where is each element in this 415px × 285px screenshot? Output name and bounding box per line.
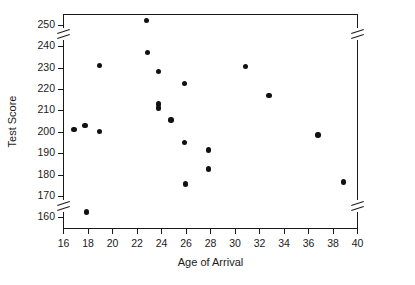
y-axis-tick-label: 190 (37, 146, 55, 159)
x-axis-tick-label: 26 (180, 237, 192, 249)
y-axis-tick: 210 (58, 110, 63, 111)
y-axis-tick-label: 230 (37, 61, 55, 74)
x-axis-tick-label: 28 (205, 237, 217, 249)
x-axis-tick-label: 18 (82, 237, 94, 249)
data-point (315, 132, 320, 137)
y-axis-tick-label: 170 (37, 189, 55, 202)
x-axis-tick-label: 30 (229, 237, 241, 249)
data-point (156, 69, 161, 74)
x-axis-tick: 40 (357, 229, 358, 234)
y-axis-tick-label: 250 (37, 18, 55, 31)
data-point (97, 129, 102, 134)
plot-frame-top-border (63, 14, 358, 15)
y-axis-tick-label: 160 (37, 210, 55, 223)
y-axis-tick-label: 180 (37, 168, 55, 181)
x-axis-tick: 22 (137, 229, 138, 234)
x-axis-tick-label: 24 (156, 237, 168, 249)
x-axis-tick: 26 (186, 229, 187, 234)
x-axis-tick-label: 20 (107, 237, 119, 249)
data-point (266, 93, 271, 98)
y-axis-tick: 180 (58, 175, 63, 176)
y-axis-tick: 240 (58, 46, 63, 47)
x-axis-tick-label: 38 (327, 237, 339, 249)
y-axis-tick: 220 (58, 89, 63, 90)
y-axis-tick-label: 200 (37, 125, 55, 138)
x-axis-tick-label: 34 (278, 237, 290, 249)
y-axis-tick-label: 210 (37, 103, 55, 116)
data-point (82, 123, 87, 128)
y-axis-tick: 170 (58, 196, 63, 197)
y-axis-title: Test Score (6, 14, 22, 229)
data-point (84, 209, 89, 214)
x-axis-tick: 32 (259, 229, 260, 234)
x-axis-tick: 16 (63, 229, 64, 234)
x-axis-tick: 28 (210, 229, 211, 234)
x-axis-tick: 30 (235, 229, 236, 234)
y-axis-break-lower-right-icon (351, 200, 364, 212)
y-axis-line-left (63, 14, 64, 229)
y-axis-tick: 230 (58, 68, 63, 69)
data-point (183, 181, 188, 186)
y-axis-tick-label: 220 (37, 82, 55, 95)
x-axis-tick-label: 36 (303, 237, 315, 249)
y-axis-break-lower-left-icon (57, 200, 70, 212)
y-axis-tick: 190 (58, 153, 63, 154)
x-axis-tick: 38 (333, 229, 334, 234)
data-point (156, 105, 161, 110)
data-point (145, 50, 150, 55)
y-axis-tick-label: 240 (37, 39, 55, 52)
x-axis-tick: 34 (284, 229, 285, 234)
x-axis-tick-label: 16 (58, 237, 70, 249)
x-axis-tick-label: 32 (254, 237, 266, 249)
y-axis-tick: 160 (58, 217, 63, 218)
plot-area: 160170180190200210220230240250 161820222… (63, 14, 358, 229)
x-axis-tick: 20 (112, 229, 113, 234)
data-point (206, 147, 211, 152)
data-point (182, 140, 187, 145)
data-point (97, 63, 102, 68)
x-axis-tick-label: 40 (352, 237, 364, 249)
y-axis-tick: 250 (58, 25, 63, 26)
x-axis-tick: 24 (161, 229, 162, 234)
scatter-plot-figure: Test Score 16017018019020021022023024025… (0, 0, 415, 285)
data-point (144, 18, 149, 23)
y-axis-tick: 200 (58, 132, 63, 133)
y-axis-line-right (357, 14, 358, 229)
data-point (206, 166, 211, 171)
data-point (243, 64, 248, 69)
y-axis-break-upper-right-icon (351, 28, 364, 40)
data-point (71, 127, 76, 132)
data-point (168, 117, 173, 122)
data-point (341, 179, 346, 184)
x-axis-tick: 36 (308, 229, 309, 234)
data-point (182, 81, 187, 86)
x-axis-title: Age of Arrival (63, 256, 358, 268)
x-axis-tick: 18 (88, 229, 89, 234)
y-axis-break-upper-left-icon (57, 28, 70, 40)
x-axis-tick-label: 22 (131, 237, 143, 249)
